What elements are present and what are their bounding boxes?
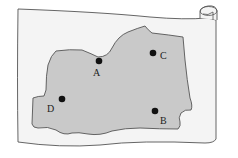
point-D-label: D	[47, 103, 54, 114]
point-A-dot	[96, 58, 103, 65]
diagram-canvas: A B C D	[0, 0, 238, 158]
point-B-label: B	[160, 115, 167, 126]
point-A-label: A	[93, 67, 101, 78]
point-C-label: C	[160, 50, 167, 61]
map-scroll-figure: A B C D	[0, 0, 238, 158]
point-C-dot	[150, 50, 157, 57]
point-D-dot	[59, 96, 66, 103]
point-B-dot	[152, 108, 159, 115]
scroll-roll-icon	[200, 6, 217, 20]
